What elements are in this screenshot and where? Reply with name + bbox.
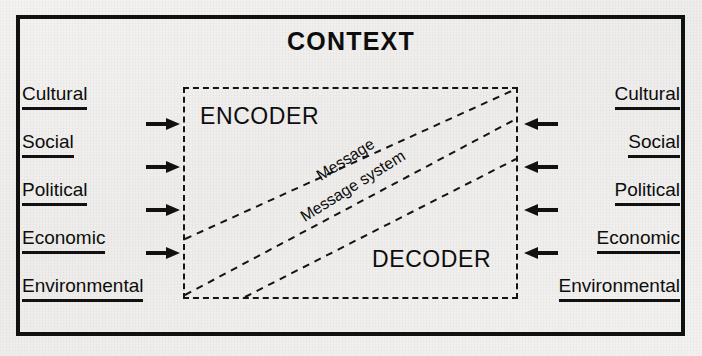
list-item: Political [520, 180, 680, 206]
list-item: Social [520, 132, 680, 158]
factor-label-environmental-left: Environmental [22, 276, 143, 302]
arrow-left-icon [524, 204, 558, 216]
list-item: Environmental [22, 276, 182, 302]
page-title: CONTEXT [0, 27, 702, 56]
diagonal-line-lower [245, 159, 516, 297]
list-item: Cultural [520, 84, 680, 110]
arrow-left-icon [524, 118, 558, 130]
factor-label-economic-left: Economic [22, 228, 105, 254]
factor-label-social-right: Social [628, 132, 680, 158]
arrow-right-icon [146, 118, 180, 130]
factor-label-environmental-right: Environmental [559, 276, 680, 302]
diagram-canvas: CONTEXT Cultural Social Political Econom… [0, 0, 702, 356]
list-item: Social [22, 132, 182, 158]
factor-label-cultural-right: Cultural [615, 84, 680, 110]
arrow-left-icon [524, 161, 558, 173]
factor-label-cultural-left: Cultural [22, 84, 87, 110]
arrow-right-icon [146, 247, 180, 259]
list-item: Cultural [22, 84, 182, 110]
list-item: Environmental [520, 276, 680, 302]
factor-label-social-left: Social [22, 132, 74, 158]
factor-label-political-left: Political [22, 180, 87, 206]
list-item: Political [22, 180, 182, 206]
factor-label-economic-right: Economic [597, 228, 680, 254]
arrow-left-icon [524, 247, 558, 259]
arrow-right-icon [146, 161, 180, 173]
arrow-right-icon [146, 204, 180, 216]
factor-label-political-right: Political [615, 180, 680, 206]
